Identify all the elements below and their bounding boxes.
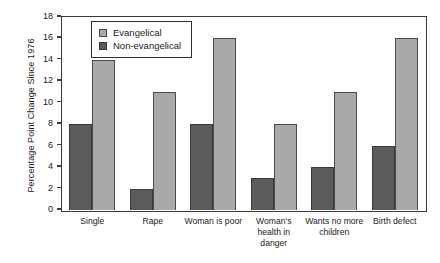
bar-chart: Percentage Point Change Since 1976 18161…: [0, 0, 440, 263]
bar-group: [365, 17, 426, 210]
y-tick-label: 0: [48, 203, 53, 215]
bar-evangelical: [334, 92, 357, 210]
bar-group: [244, 17, 305, 210]
x-tick-label: Single: [62, 216, 123, 260]
y-tick: 2: [0, 182, 61, 194]
bar-evangelical: [213, 38, 236, 210]
y-tick-label: 14: [43, 53, 53, 65]
y-tick-label: 12: [43, 74, 53, 86]
bar-evangelical: [153, 92, 176, 210]
y-tick-label: 10: [43, 96, 53, 108]
y-tick: 10: [0, 96, 61, 108]
x-tick-label: Woman is poor: [183, 216, 244, 260]
y-tick: 14: [0, 53, 61, 65]
x-tick-label: Woman's health in danger: [244, 216, 305, 260]
y-tick: 0: [0, 203, 61, 215]
y-tick: 6: [0, 139, 61, 151]
bar-non-evangelical: [190, 124, 213, 210]
legend-swatch-non-evangelical: [99, 42, 107, 50]
y-tick: 12: [0, 74, 61, 86]
y-tick: 16: [0, 31, 61, 43]
x-tick-label: Wants no more children: [304, 216, 365, 260]
legend-swatch-evangelical: [99, 29, 107, 37]
y-tick-label: 4: [48, 160, 53, 172]
y-tick: 4: [0, 160, 61, 172]
bar-evangelical: [274, 124, 297, 210]
y-axis-ticks: 181614121086420: [0, 16, 61, 212]
bar-non-evangelical: [251, 178, 274, 210]
y-tick: 18: [0, 10, 61, 22]
x-tick-label: Birth defect: [365, 216, 426, 260]
y-tick-label: 6: [48, 139, 53, 151]
legend-item: Non-evangelical: [99, 39, 181, 52]
bar-non-evangelical: [69, 124, 92, 210]
x-axis-labels: SingleRapeWoman is poorWoman's health in…: [62, 216, 425, 260]
legend-label: Evangelical: [113, 26, 162, 39]
chart-legend: EvangelicalNon-evangelical: [91, 21, 192, 58]
bar-evangelical: [395, 38, 418, 210]
y-tick: 8: [0, 117, 61, 129]
bar-non-evangelical: [372, 146, 395, 210]
y-tick-label: 2: [48, 182, 53, 194]
y-tick-label: 16: [43, 31, 53, 43]
x-tick-label: Rape: [123, 216, 184, 260]
bar-group: [304, 17, 365, 210]
y-tick-label: 8: [48, 117, 53, 129]
legend-label: Non-evangelical: [113, 39, 181, 52]
legend-item: Evangelical: [99, 26, 181, 39]
bar-non-evangelical: [130, 189, 153, 210]
bar-non-evangelical: [311, 167, 334, 210]
bar-evangelical: [92, 60, 115, 210]
y-tick-label: 18: [43, 10, 53, 22]
